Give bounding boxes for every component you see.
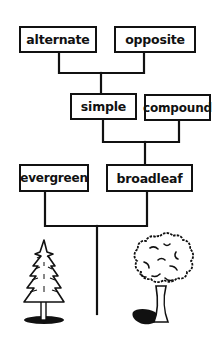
node-label: broadleaf (117, 171, 183, 186)
node-broadleaf: broadleaf (106, 164, 193, 192)
node-label: compound (143, 101, 212, 115)
node-evergreen: evergreen (19, 164, 89, 192)
node-opposite: opposite (114, 26, 196, 53)
node-label: opposite (125, 32, 185, 47)
connector-alternate-opposite (59, 52, 144, 73)
node-label: simple (81, 99, 126, 114)
node-compound: compound (144, 94, 211, 121)
node-label: evergreen (20, 171, 88, 185)
broadleaf-tree-icon (132, 233, 193, 324)
connector-simple-compound (103, 119, 179, 142)
node-label: alternate (26, 32, 89, 47)
evergreen-tree-icon (24, 240, 64, 324)
connector-evergreen-broadleaf (45, 192, 147, 226)
node-alternate: alternate (19, 26, 97, 53)
node-simple: simple (70, 93, 137, 120)
